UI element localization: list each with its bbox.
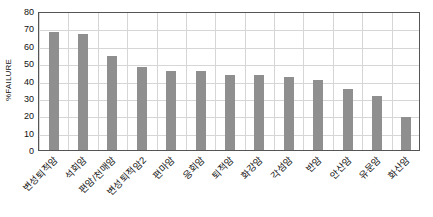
bar [284,77,294,150]
bar [372,96,382,150]
bar [137,67,147,150]
bar [107,56,117,150]
y-axis-tick-label: 50 [24,60,34,69]
bar [254,75,264,150]
y-axis-tick-label: 70 [24,25,34,34]
bar [401,117,411,150]
bar [166,71,176,150]
bar [49,32,59,150]
y-axis-tick-label: 10 [24,129,34,138]
bar-chart: %FAILURE 01020304050607080 변성퇴적암석회암편암/천매… [0,0,433,217]
y-axis-tick-labels: 01020304050607080 [14,12,36,151]
bar [313,80,323,150]
bars-layer [39,13,419,150]
y-axis-tick-label: 20 [24,112,34,121]
y-axis-tick-label: 40 [24,77,34,86]
x-axis-tick-labels: 변성퇴적암석회암편암/천매암변성퇴적암2편마암응회암퇴적암화강암각섬암반암안산암… [38,151,420,217]
bar [78,34,88,150]
bar [196,71,206,150]
bar [343,89,353,150]
bar [225,75,235,150]
plot-area [38,12,420,151]
y-axis-tick-label: 30 [24,94,34,103]
y-axis-tick-label: 80 [24,8,34,17]
y-axis-tick-label: 0 [29,147,34,156]
y-axis-tick-label: 60 [24,42,34,51]
